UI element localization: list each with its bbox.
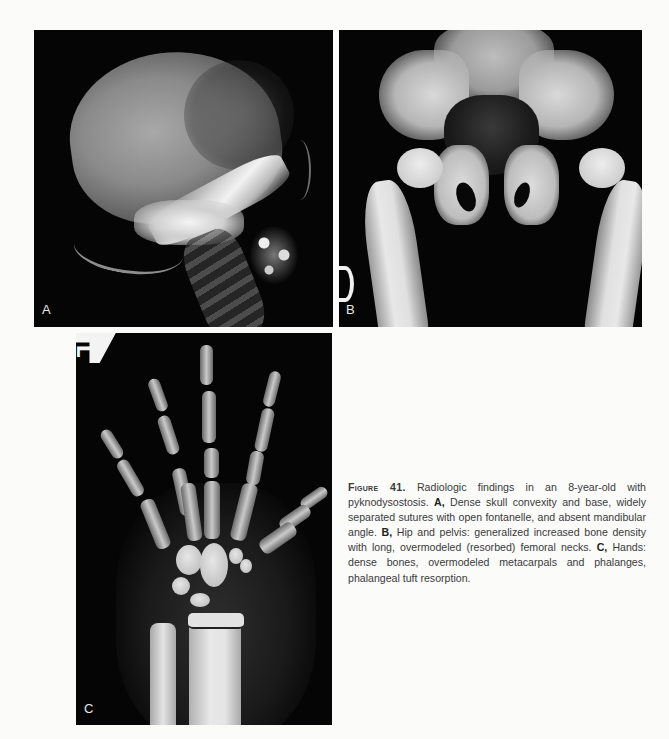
femoral-head-left bbox=[397, 148, 443, 188]
phalanx-middle-middle bbox=[202, 391, 216, 443]
radial-epiphysis bbox=[188, 613, 244, 629]
femur-left bbox=[358, 177, 430, 327]
ulna bbox=[150, 623, 176, 725]
facial-profile bbox=[289, 140, 311, 200]
figure-panel-c-hand-xray: L C bbox=[76, 333, 332, 725]
caption-label-c: C, bbox=[597, 541, 608, 553]
skull-frontal-region bbox=[184, 60, 294, 170]
pubis-right bbox=[504, 145, 559, 225]
side-marker-l-icon: L bbox=[76, 345, 94, 358]
phalanx-middle-distal bbox=[200, 345, 213, 385]
figure-panel-b-pelvis-xray: B bbox=[339, 30, 642, 327]
phalanx-index-proximal bbox=[245, 450, 265, 486]
panel-label-b: B bbox=[346, 302, 355, 317]
carpal-trapezium bbox=[240, 559, 252, 573]
figure-caption: Figure 41. Radiologic findings in an 8-y… bbox=[348, 480, 646, 586]
teeth bbox=[249, 225, 299, 285]
metacarpal-middle bbox=[204, 481, 220, 539]
phalanx-index-distal bbox=[262, 370, 282, 408]
phalanx-ring-distal bbox=[147, 377, 170, 413]
panel-label-c: C bbox=[84, 701, 93, 716]
panel-label-a: A bbox=[42, 302, 51, 317]
carpal-lunate bbox=[190, 593, 210, 607]
caption-label-b: B, bbox=[382, 526, 393, 538]
radius bbox=[189, 618, 241, 725]
phalanx-little-proximal bbox=[115, 457, 146, 498]
phalanx-index-middle bbox=[254, 407, 276, 453]
figure-number: Figure 41. bbox=[348, 481, 406, 493]
phalanx-middle-proximal bbox=[204, 448, 219, 478]
carpal-hamate bbox=[176, 545, 202, 575]
femoral-head-right bbox=[579, 148, 625, 188]
carpal-capitate bbox=[200, 543, 228, 587]
caption-label-a: A, bbox=[434, 496, 445, 508]
phalanx-ring-middle bbox=[156, 414, 181, 456]
phalanx-little-distal bbox=[98, 427, 125, 460]
carpal-triquetrum bbox=[172, 577, 190, 595]
femur-right bbox=[583, 177, 642, 327]
figure-panel-a-skull-xray: A bbox=[34, 30, 333, 327]
side-marker-r-icon bbox=[339, 266, 354, 302]
